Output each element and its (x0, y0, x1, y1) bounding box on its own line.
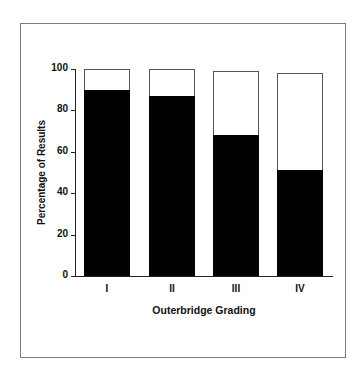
x-axis-title: Outerbridge Grading (75, 304, 333, 316)
x-axis-line (75, 276, 333, 277)
y-axis-line (75, 69, 76, 277)
bar-I (84, 69, 130, 276)
x-tick-label: IV (277, 283, 323, 294)
bar-filled-segment (277, 170, 323, 276)
y-tick-label: 20 (38, 229, 68, 239)
y-tick-label: 60 (38, 146, 68, 156)
y-tick-label: 80 (38, 104, 68, 114)
bar-filled-segment (213, 135, 259, 276)
x-tick-label: II (149, 283, 195, 294)
y-axis-title: Percentage of Results (36, 118, 47, 228)
x-tick-label: III (213, 283, 259, 294)
y-tick-label: 100 (38, 63, 68, 73)
y-tick-label: 0 (38, 270, 68, 280)
y-tick-label: 40 (38, 187, 68, 197)
bar-filled-segment (149, 96, 195, 276)
bar-filled-segment (84, 90, 130, 276)
bar-IV (277, 73, 323, 276)
bar-III (213, 71, 259, 276)
bar-II (149, 69, 195, 276)
x-tick-label: I (84, 283, 130, 294)
